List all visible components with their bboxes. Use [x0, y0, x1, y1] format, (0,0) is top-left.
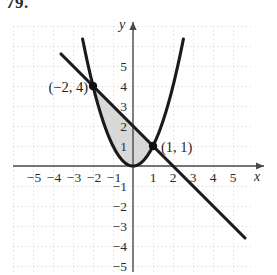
y-tick-2: 2 [120, 119, 127, 134]
y-tick--1: −1 [113, 179, 127, 194]
graph-figure: 79. [0, 0, 277, 275]
x-tick--2: −2 [87, 170, 101, 185]
point-marker-b [149, 142, 157, 150]
problem-number: 79. [6, 0, 29, 13]
x-axis-label: x [253, 169, 261, 184]
x-tick-5: 5 [230, 170, 237, 185]
y-tick--4: −4 [113, 239, 128, 254]
point-label-b: (1, 1) [161, 139, 193, 156]
x-tick--5: −5 [27, 170, 42, 185]
y-axis-label: y [117, 17, 126, 32]
y-tick-4: 4 [120, 79, 127, 94]
y-tick--2: −2 [113, 199, 127, 214]
point-label-a: (−2, 4) [48, 79, 88, 96]
x-tick--4: −4 [47, 170, 62, 185]
y-tick-3: 3 [120, 99, 127, 114]
point-marker-a [89, 82, 97, 90]
y-tick-5: 5 [120, 59, 127, 74]
y-tick--3: −3 [113, 219, 128, 234]
x-tick-2: 2 [170, 170, 177, 185]
x-tick-4: 4 [210, 170, 217, 185]
y-tick--5: −5 [113, 259, 128, 274]
x-tick--3: −3 [67, 170, 82, 185]
y-tick-1: 1 [120, 139, 127, 154]
x-tick-1: 1 [150, 170, 157, 185]
coordinate-plane: x y −5−4−3−2−112345 54321−1−2−3−4−5 (−2,… [0, 0, 277, 275]
